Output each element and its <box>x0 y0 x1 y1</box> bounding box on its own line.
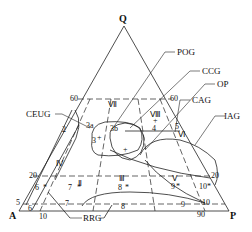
field-num-10b: 10 <box>202 198 210 207</box>
field-num-8b: 8 <box>121 202 125 211</box>
field-num-9: 9 <box>171 182 175 191</box>
field-label-ccg: CCG <box>202 66 221 76</box>
roman-vii: Ⅶ <box>108 100 117 109</box>
vertex-p-label: P <box>230 210 236 221</box>
field-num-7b: 7 <box>65 199 69 208</box>
field-label-ceug: CEUG <box>26 109 51 119</box>
field-num-7: 7 <box>68 183 72 192</box>
vertex-a-label: A <box>9 210 17 221</box>
callout-leaders <box>55 52 225 218</box>
field-num-8: 8 <box>118 183 122 192</box>
svg-text:+: + <box>123 145 128 154</box>
field-num-3a: 3a <box>86 121 94 130</box>
tick-bottom-10: 10 <box>39 212 47 221</box>
svg-text:*: * <box>176 182 180 191</box>
field-num-6b: 6 <box>28 204 32 213</box>
tick-right-20: 20 <box>211 171 219 180</box>
field-num-6: 6 <box>35 183 39 192</box>
dashed-grid <box>23 99 225 211</box>
field-num-4: 4 <box>152 124 156 133</box>
field-num-3: 3 <box>92 136 96 145</box>
svg-text:+: + <box>97 133 102 142</box>
vertex-q-label: Q <box>119 13 127 24</box>
svg-text:+: + <box>153 116 158 125</box>
field-num-9b: 9 <box>181 200 185 209</box>
svg-text:*: * <box>207 182 211 191</box>
svg-text:*: * <box>125 183 129 192</box>
svg-text:*: * <box>77 183 81 192</box>
tick-left-5: 5 <box>16 198 20 207</box>
svg-text:*: * <box>43 183 47 192</box>
tick-bottom-90: 90 <box>197 210 205 219</box>
tick-right-60: 60 <box>170 94 178 103</box>
triangle-frame <box>19 26 229 211</box>
roman-iv: Ⅳ <box>56 159 64 168</box>
field-label-rrg: RRG <box>83 213 102 223</box>
tick-left-20: 20 <box>29 171 37 180</box>
field-num-10: 10 <box>199 182 207 191</box>
field-label-pog: POG <box>177 47 196 57</box>
tick-left-60: 60 <box>70 94 78 103</box>
roman-iii: Ⅲ <box>119 174 125 183</box>
field-num-2: 2 <box>62 125 66 134</box>
qap-ternary-diagram: Q A P POG CCG OP CAG IAG CEUG RRG 60 60 … <box>0 0 252 232</box>
roman-vi: Ⅵ <box>178 130 185 139</box>
field-num-3b: 3b <box>110 124 118 133</box>
field-label-op: OP <box>217 79 229 89</box>
field-label-iag: IAG <box>224 111 240 121</box>
field-label-cag: CAG <box>192 95 212 105</box>
